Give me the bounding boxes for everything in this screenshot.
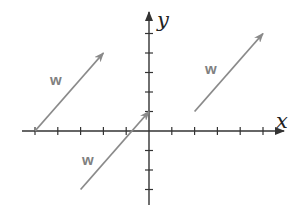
vector-arrow <box>35 53 103 131</box>
vector-label: w <box>49 71 62 88</box>
vector-label: w <box>204 60 217 77</box>
vector-w-3: w <box>195 34 263 112</box>
vector-label: w <box>81 151 94 168</box>
x-axis-label: x <box>276 109 288 133</box>
coordinate-plane: www x y <box>0 0 294 218</box>
vector-w-2: w <box>81 112 149 190</box>
vector-w-1: w <box>35 53 103 131</box>
axes <box>22 12 284 205</box>
vector-diagram: www x y <box>0 0 294 218</box>
y-axis-label: y <box>156 8 170 32</box>
